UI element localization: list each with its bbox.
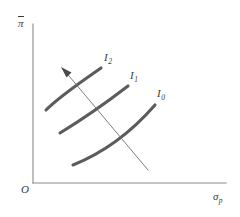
curve-I0 <box>73 105 155 165</box>
axes-group <box>33 24 226 183</box>
x-axis-label: σp <box>213 191 222 202</box>
curve-label-I0: I0 <box>157 88 164 99</box>
arrow-head <box>61 67 72 78</box>
curve-label-I0-subscript: 0 <box>161 93 165 102</box>
curve-label-I2: I2 <box>104 52 111 63</box>
curve-label-I1-subscript: 1 <box>134 75 138 84</box>
curve-label-I1: I1 <box>130 70 137 81</box>
curve-I1 <box>60 86 128 133</box>
figure-container: I2 I1 I0 π σp O <box>0 0 240 217</box>
figure-canvas <box>0 0 240 217</box>
origin-label: O <box>21 184 29 195</box>
curve-label-I2-subscript: 2 <box>108 57 112 66</box>
x-axis-subscript: p <box>219 196 223 205</box>
x-axis-symbol: σ <box>213 190 218 202</box>
y-axis-label: π <box>18 16 24 29</box>
arrow-shaft <box>64 70 148 170</box>
y-axis-symbol: π <box>18 16 24 29</box>
indifference-curves-group <box>46 68 155 165</box>
